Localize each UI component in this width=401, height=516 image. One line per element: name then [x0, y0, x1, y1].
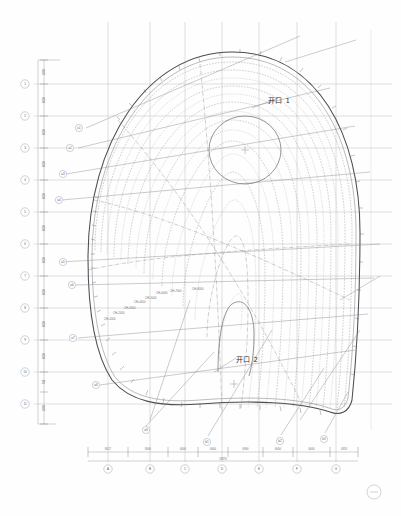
annotation-layer: 开口 1 开口 2 CH+1000CH+2000CH+3000CH+4000CH…	[0, 0, 401, 516]
contour-label: CH+1000	[104, 317, 116, 321]
grid-bubble[interactable]: 1	[21, 80, 29, 88]
bottom-dimension-chain: 8017800060006000699060006000495353870	[88, 447, 358, 461]
callout-bubble[interactable]: b1	[203, 438, 210, 445]
callout-bubble-label: a7	[71, 336, 75, 340]
callout-bubble[interactable]: a8	[92, 381, 99, 388]
contour-label: CH+2000	[113, 311, 125, 315]
callout-bubble-label: a8	[94, 383, 98, 387]
grid-bubble[interactable]: G	[332, 465, 340, 473]
grid-bubble-label: 3	[24, 146, 26, 150]
grid-bubble-label: 6	[24, 242, 26, 246]
dimension-value: 5000	[42, 69, 46, 75]
grid-bubble-label: E	[258, 467, 260, 471]
grid-bubble-label: 9	[24, 338, 26, 342]
contour-label: CH+5000	[145, 296, 157, 300]
drawing-sheet: 开口 1 开口 2 CH+1000CH+2000CH+3000CH+4000CH…	[0, 0, 401, 516]
grid-bubble-label: 7	[24, 274, 26, 278]
grid-bubble[interactable]: 7	[21, 272, 29, 280]
callout-bubble-label: a4	[57, 198, 61, 202]
dimension-value: 6000	[42, 97, 46, 103]
callout-bubble-label: a9	[144, 428, 148, 432]
callout-bubble-label: a6	[70, 283, 74, 287]
grid-bubble[interactable]: 2	[21, 112, 29, 120]
callout-bubble[interactable]: a3	[59, 170, 66, 177]
dimension-value: 6000	[180, 447, 187, 451]
grid-bubble[interactable]: F	[293, 465, 301, 473]
opening-1-label: 开口 1	[268, 97, 290, 105]
grid-bubble-label: 8	[24, 306, 26, 310]
grid-bubble-label: 11	[23, 402, 26, 406]
callout-bubble[interactable]: a6	[68, 281, 75, 288]
dimension-value: 700	[42, 379, 46, 384]
contour-label: CH+6000	[156, 291, 168, 295]
dimension-value: 6990	[242, 447, 249, 451]
callout-bubble[interactable]: a4	[55, 196, 62, 203]
dimension-value: 6000	[42, 161, 46, 167]
grid-bubble-label: 1	[24, 82, 26, 86]
dimension-value: 6000	[42, 289, 46, 295]
contour-label: CH+3000	[124, 306, 136, 310]
callout-bubble-label: a3	[61, 172, 65, 176]
left-grid-bubble-group: 1234567891011	[21, 80, 29, 408]
dimension-value: 6000	[42, 193, 46, 199]
grid-bubble[interactable]: B	[146, 465, 154, 473]
callout-bubble[interactable]: a1	[75, 124, 82, 131]
callout-bubble-label: a1	[77, 126, 81, 130]
bottom-grid-bubble-group: ABCDEFG	[104, 465, 340, 473]
left-dimension-chain: 5000600060006000600060006000600060006000…	[38, 60, 60, 424]
grid-bubble-label: B	[149, 467, 151, 471]
grid-bubble[interactable]: 11	[21, 400, 29, 408]
grid-bubble[interactable]: 5	[21, 208, 29, 216]
dimension-value: 6000	[42, 257, 46, 263]
callout-bubble-label: a5	[61, 260, 65, 264]
dimension-value: 6000	[42, 321, 46, 327]
callout-bubble[interactable]: a2	[66, 144, 73, 151]
dimension-value: 6000	[42, 353, 46, 359]
grid-bubble[interactable]: 6	[21, 240, 29, 248]
grid-bubble[interactable]: A	[104, 465, 112, 473]
grid-bubble-label: F	[296, 467, 298, 471]
grid-bubble[interactable]: C	[181, 465, 189, 473]
dimension-value: 8017	[105, 447, 112, 451]
callout-bubble-label: a2	[68, 146, 72, 150]
dimension-value: 6000	[308, 447, 315, 451]
callout-bubble[interactable]: b3	[320, 435, 327, 442]
grid-bubble[interactable]: 8	[21, 304, 29, 312]
callout-bubble[interactable]: a7	[69, 334, 76, 341]
callout-bubble-label: b1	[205, 440, 209, 444]
opening-2-label: 开口 2	[236, 356, 258, 364]
page-marker[interactable]	[367, 485, 381, 499]
dimension-value: 6000	[275, 447, 282, 451]
dimension-value: 6000	[210, 447, 217, 451]
grid-bubble[interactable]: 10	[21, 368, 29, 376]
callout-bubble-label: b3	[322, 437, 326, 441]
dimension-value: 6000	[42, 129, 46, 135]
dimension-value: 8000	[145, 447, 152, 451]
grid-bubble-label: 5	[24, 210, 26, 214]
dimension-value: 5000	[42, 405, 46, 411]
grid-bubble[interactable]: 4	[21, 176, 29, 184]
dimension-value: 4953	[341, 447, 348, 451]
contour-label: CH+8000	[192, 287, 204, 291]
callout-bubble[interactable]: a5	[59, 258, 66, 265]
contour-label: CH+4000	[134, 300, 146, 304]
grid-bubble[interactable]: E	[255, 465, 263, 473]
overall-dimension-value: 53870	[219, 457, 227, 461]
grid-bubble[interactable]: 3	[21, 144, 29, 152]
grid-bubble-label: 10	[23, 370, 27, 374]
dimension-value: 6000	[42, 225, 46, 231]
grid-bubble-label: 2	[24, 114, 26, 118]
grid-bubble-label: 4	[24, 178, 26, 182]
grid-bubble[interactable]: D	[218, 465, 226, 473]
callout-bubble[interactable]: b2	[276, 437, 283, 444]
contour-label-group: CH+1000CH+2000CH+3000CH+4000CH+5000CH+60…	[104, 287, 204, 321]
callout-bubble-label: b2	[278, 439, 282, 443]
contour-label: CH+7000	[170, 289, 182, 293]
callout-bubble-group: a1a2a3a4a5a6a7a8a9b1b2b3	[55, 124, 327, 445]
grid-bubble[interactable]: 9	[21, 336, 29, 344]
callout-bubble[interactable]: a9	[142, 426, 149, 433]
